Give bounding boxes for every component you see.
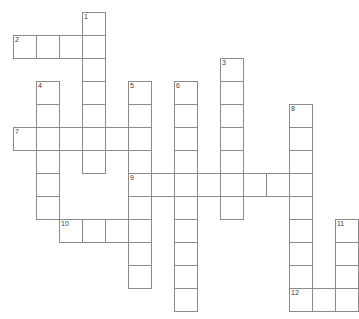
- crossword-cell[interactable]: [289, 150, 313, 174]
- cell-number-12: 12: [291, 289, 299, 297]
- crossword-cell[interactable]: [220, 173, 244, 197]
- crossword-cell[interactable]: [335, 265, 359, 289]
- crossword-cell[interactable]: [174, 104, 198, 128]
- crossword-cell[interactable]: 7: [13, 127, 37, 151]
- crossword-cell[interactable]: [243, 173, 267, 197]
- crossword-cell[interactable]: [82, 219, 106, 243]
- crossword-cell[interactable]: [220, 196, 244, 220]
- crossword-cell[interactable]: [82, 58, 106, 82]
- crossword-cell[interactable]: [59, 35, 83, 59]
- crossword-cell[interactable]: [220, 81, 244, 105]
- crossword-cell[interactable]: [289, 196, 313, 220]
- crossword-cell[interactable]: [105, 219, 129, 243]
- cell-number-10: 10: [61, 220, 69, 228]
- cell-number-8: 8: [291, 105, 295, 113]
- cell-number-6: 6: [176, 82, 180, 90]
- crossword-cell[interactable]: [82, 104, 106, 128]
- crossword-cell[interactable]: [174, 150, 198, 174]
- crossword-cell[interactable]: [105, 127, 129, 151]
- cell-number-5: 5: [130, 82, 134, 90]
- crossword-cell[interactable]: [128, 196, 152, 220]
- crossword-cell[interactable]: [312, 288, 336, 312]
- cell-number-1: 1: [84, 13, 88, 21]
- crossword-cell[interactable]: [36, 173, 60, 197]
- crossword-cell[interactable]: 9: [128, 173, 152, 197]
- crossword-cell[interactable]: [128, 219, 152, 243]
- crossword-cell[interactable]: [174, 173, 198, 197]
- crossword-cell[interactable]: [151, 173, 175, 197]
- crossword-cell[interactable]: 5: [128, 81, 152, 105]
- cell-number-9: 9: [130, 174, 134, 182]
- crossword-cell[interactable]: [36, 196, 60, 220]
- crossword-cell[interactable]: [128, 150, 152, 174]
- crossword-cell[interactable]: 4: [36, 81, 60, 105]
- cell-number-4: 4: [38, 82, 42, 90]
- cell-number-2: 2: [15, 36, 19, 44]
- crossword-cell[interactable]: [36, 150, 60, 174]
- crossword-cell[interactable]: [174, 219, 198, 243]
- crossword-cell[interactable]: [128, 127, 152, 151]
- cell-number-7: 7: [15, 128, 19, 136]
- crossword-cell[interactable]: [59, 127, 83, 151]
- crossword-cell[interactable]: [128, 104, 152, 128]
- crossword-cell[interactable]: [82, 150, 106, 174]
- crossword-cell[interactable]: [82, 35, 106, 59]
- cell-number-3: 3: [222, 59, 226, 67]
- crossword-cell[interactable]: [82, 127, 106, 151]
- crossword-cell[interactable]: [335, 242, 359, 266]
- crossword-cell[interactable]: [335, 288, 359, 312]
- crossword-cell[interactable]: [289, 173, 313, 197]
- crossword-cell[interactable]: [289, 219, 313, 243]
- crossword-cell[interactable]: [289, 242, 313, 266]
- crossword-cell[interactable]: 3: [220, 58, 244, 82]
- crossword-cell[interactable]: [174, 196, 198, 220]
- crossword-cell[interactable]: [82, 81, 106, 105]
- crossword-cell[interactable]: [36, 104, 60, 128]
- crossword-cell[interactable]: [174, 127, 198, 151]
- crossword-cell[interactable]: 10: [59, 219, 83, 243]
- crossword-cell[interactable]: [197, 173, 221, 197]
- crossword-cell[interactable]: [289, 127, 313, 151]
- crossword-cell[interactable]: 8: [289, 104, 313, 128]
- crossword-cell[interactable]: [220, 127, 244, 151]
- cell-number-11: 11: [337, 220, 344, 228]
- crossword-cell[interactable]: 11: [335, 219, 359, 243]
- crossword-cell[interactable]: 12: [289, 288, 313, 312]
- crossword-cell[interactable]: [36, 127, 60, 151]
- crossword-cell[interactable]: [220, 150, 244, 174]
- crossword-cell[interactable]: 1: [82, 12, 106, 36]
- crossword-cell[interactable]: [174, 265, 198, 289]
- crossword-cell[interactable]: [289, 265, 313, 289]
- crossword-cell[interactable]: [128, 242, 152, 266]
- crossword-cell[interactable]: 6: [174, 81, 198, 105]
- crossword-cell[interactable]: [174, 242, 198, 266]
- crossword-cell[interactable]: [128, 265, 152, 289]
- crossword-cell[interactable]: [220, 104, 244, 128]
- crossword-cell[interactable]: [266, 173, 290, 197]
- crossword-cell[interactable]: [36, 35, 60, 59]
- crossword-cell[interactable]: 2: [13, 35, 37, 59]
- crossword-cell[interactable]: [174, 288, 198, 312]
